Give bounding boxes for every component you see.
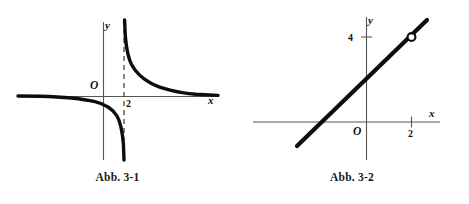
plot-straight-line: y x O 2 4: [235, 0, 469, 175]
origin-label: O: [353, 125, 361, 137]
figure-sheet: y x O 2 Abb. 3-1 y x O 2 4: [0, 0, 469, 204]
x-tick-label-2: 2: [126, 98, 131, 109]
figure-2-caption: Abb. 3-2: [235, 171, 469, 183]
y-axis-label: y: [103, 19, 110, 31]
plot-hyperbola: y x O 2: [0, 0, 235, 175]
figure-abb-3-2: y x O 2 4 Abb. 3-2: [235, 0, 469, 204]
curve-right-branch: [125, 20, 218, 95]
y-tick-label-4: 4: [348, 32, 353, 43]
x-axis-label: x: [428, 107, 435, 119]
open-circle-marker: [408, 33, 416, 41]
figure-1-caption: Abb. 3-1: [0, 171, 235, 183]
figure-abb-3-1: y x O 2 Abb. 3-1: [0, 0, 235, 204]
origin-label: O: [90, 79, 98, 91]
x-tick-label-2: 2: [408, 128, 413, 139]
x-axis-label: x: [207, 94, 214, 106]
y-axis-label: y: [366, 14, 373, 26]
curve-left-branch: [18, 96, 124, 160]
